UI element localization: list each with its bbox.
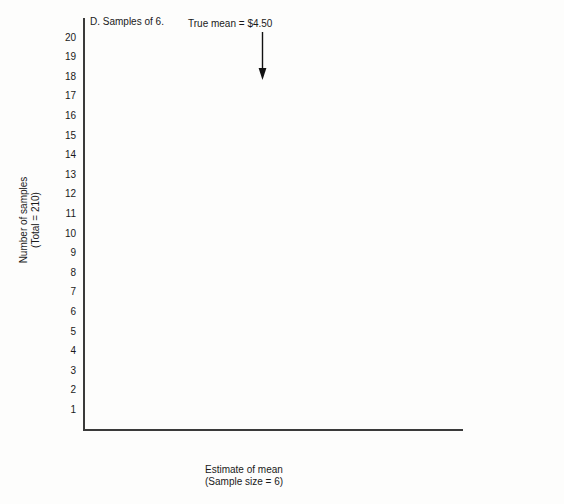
- y-axis-title-line2: (Total = 210): [30, 150, 42, 290]
- dot-plot-chart: D. Samples of 6. True mean = $4.50 12345…: [0, 0, 564, 504]
- y-tick-label: 20: [48, 33, 76, 43]
- x-axis-ticks: [0, 438, 564, 454]
- y-tick-label: 17: [48, 91, 76, 101]
- true-mean-annotation-label: True mean = $4.50: [188, 18, 272, 30]
- y-axis-line: [83, 18, 85, 430]
- x-axis-line: [83, 429, 463, 431]
- y-tick-label: 3: [48, 366, 76, 376]
- y-tick-label: 9: [48, 248, 76, 258]
- x-axis-title-line2: (Sample size = 6): [205, 476, 405, 488]
- y-axis-title: Number of samples (Total = 210): [18, 150, 42, 290]
- y-tick-label: 4: [48, 346, 76, 356]
- y-axis-title-line1: Number of samples: [18, 150, 30, 290]
- down-arrow-icon: [257, 32, 268, 80]
- y-tick-label: 12: [48, 189, 76, 199]
- x-axis-title: Estimate of mean (Sample size = 6): [205, 464, 405, 488]
- panel-label: D. Samples of 6.: [90, 16, 164, 28]
- y-tick-label: 13: [48, 170, 76, 180]
- y-tick-label: 5: [48, 327, 76, 337]
- y-tick-label: 7: [48, 287, 76, 297]
- y-tick-label: 18: [48, 72, 76, 82]
- y-tick-label: 1: [48, 405, 76, 415]
- y-tick-label: 11: [48, 209, 76, 219]
- y-tick-label: 19: [48, 52, 76, 62]
- y-tick-label: 15: [48, 131, 76, 141]
- x-axis-title-line1: Estimate of mean: [205, 464, 405, 476]
- y-tick-label: 6: [48, 307, 76, 317]
- y-tick-label: 2: [48, 385, 76, 395]
- plot-area: D. Samples of 6. True mean = $4.50 12345…: [0, 0, 564, 504]
- y-tick-label: 14: [48, 150, 76, 160]
- y-tick-label: 8: [48, 268, 76, 278]
- y-tick-label: 16: [48, 111, 76, 121]
- y-axis-ticks: 1234567891011121314151617181920: [46, 0, 76, 504]
- y-tick-label: 10: [48, 229, 76, 239]
